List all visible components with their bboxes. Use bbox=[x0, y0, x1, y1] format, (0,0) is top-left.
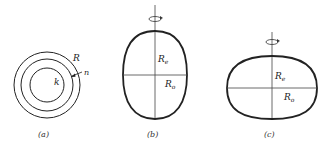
n-arrow-head-icon bbox=[71, 74, 76, 78]
figure-canvas: R n k (a) Re Ro (b) Re Ro (c) bbox=[0, 0, 327, 145]
label-n: n bbox=[84, 68, 89, 77]
label-k: k bbox=[54, 77, 59, 87]
label-Re: Re bbox=[157, 54, 169, 65]
label-R: R bbox=[72, 53, 80, 63]
panel-a: R n k (a) bbox=[14, 52, 89, 139]
rotation-arrowhead-icon bbox=[277, 39, 280, 43]
panel-c: Re Ro (c) bbox=[227, 32, 317, 139]
outer-circle bbox=[14, 52, 80, 118]
caption-a: (a) bbox=[38, 130, 49, 139]
rotation-arrowhead-icon bbox=[160, 16, 163, 20]
label-Ro: Ro bbox=[164, 79, 176, 90]
label-Re: Re bbox=[274, 71, 286, 82]
caption-b: (b) bbox=[147, 130, 158, 139]
middle-circle bbox=[21, 59, 73, 111]
panel-b: Re Ro (b) bbox=[123, 5, 187, 139]
caption-c: (c) bbox=[264, 130, 275, 139]
label-Ro: Ro bbox=[283, 92, 295, 103]
